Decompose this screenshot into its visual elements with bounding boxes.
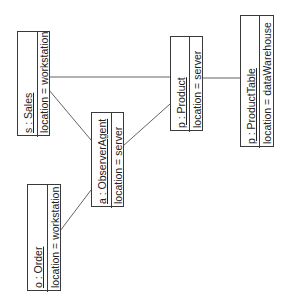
object-observer-agent[interactable]: a : ObserverAgent location = server [91,112,124,207]
object-name: p : Product [171,37,190,132]
object-name: p : ProductTable [241,16,260,148]
object-attribute: location = server [112,113,125,208]
link-order-observer [60,190,91,231]
object-attribute: location = workstation [48,185,62,292]
object-sales[interactable]: s : Sales location = workstation [17,31,50,136]
object-name: a : ObserverAgent [92,113,112,208]
object-product-table[interactable]: p : ProductTable location = dataWarehous… [240,15,274,147]
object-name: s : Sales [18,32,38,137]
object-product[interactable]: p : Product location = server [170,36,203,131]
object-attribute: location = dataWarehouse [260,16,275,148]
object-attribute: location = server [190,37,204,132]
object-name: o : Order [28,185,48,292]
object-order[interactable]: o : Order location = workstation [27,184,61,291]
link-sales-observer [49,90,91,140]
link-observer-product [123,104,170,146]
object-attribute: location = workstation [38,32,51,137]
